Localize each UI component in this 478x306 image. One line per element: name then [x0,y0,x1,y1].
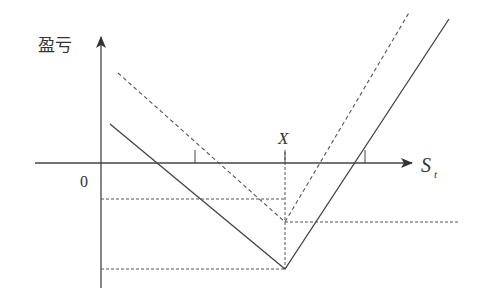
x-axis-label: S [421,154,431,176]
origin-label: 0 [80,173,88,190]
x-axis-label-subscript: t [434,168,438,180]
y-axis-label: 盈亏 [38,35,72,55]
strike-label: X [277,129,289,148]
dashed-payoff-line [118,11,410,222]
payoff-diagram: 盈亏 0 X S t [0,0,478,306]
